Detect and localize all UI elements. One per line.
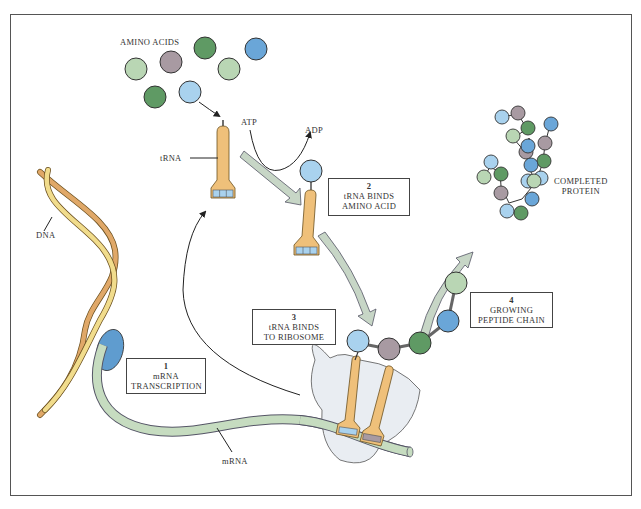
atp-label: ATP [241, 117, 257, 127]
completed-protein [477, 106, 558, 220]
dna-helix [40, 170, 116, 415]
dna-label: DNA [36, 230, 55, 240]
step-3-box: 3 tRNA BINDS TO RIBOSOME [252, 309, 336, 345]
free-amino-acids [125, 37, 267, 108]
adp-label: ADP [305, 125, 323, 135]
amino-acids-label: AMINO ACIDS [120, 37, 179, 47]
flow-arrow-1 [240, 151, 301, 205]
dna-pointer [44, 217, 52, 231]
mrna-label: mRNA [222, 456, 248, 466]
step-4-box: 4 GROWING PEPTIDE CHAIN [470, 292, 553, 328]
step-2-box: 2 tRNA BINDS AMINO ACID [328, 178, 410, 216]
trna-label: tRNA [160, 153, 182, 163]
amino-acid-arrow [199, 102, 219, 116]
ribosome [311, 344, 420, 462]
trna-charged [294, 160, 322, 255]
protein-synthesis-illustration [0, 0, 641, 509]
step-1-box: 1 mRNA TRANSCRIPTION [126, 358, 206, 394]
trna-free [211, 120, 235, 198]
completed-protein-label: COMPLETED PROTEIN [554, 176, 608, 196]
mrna-pointer [217, 428, 232, 452]
